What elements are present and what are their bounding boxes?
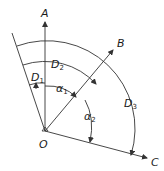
arc-d3 [17, 41, 135, 155]
label-d3: D3 [124, 97, 137, 111]
label-o: O [39, 138, 48, 151]
angle-diagram: A B C O D1 D2 D3 α1 α2 [0, 0, 164, 171]
label-a: A [40, 7, 49, 20]
label-b: B [117, 37, 125, 50]
label-c: C [151, 156, 159, 169]
label-d1: D1 [31, 71, 44, 85]
label-alpha1: α1 [56, 82, 68, 96]
label-d2: D2 [51, 58, 64, 72]
label-alpha2: α2 [84, 110, 96, 124]
